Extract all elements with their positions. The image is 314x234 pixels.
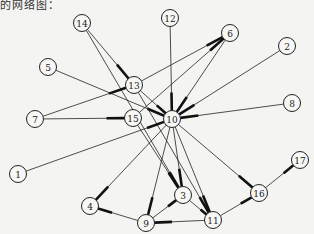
- node-label: 13: [128, 81, 140, 91]
- node-label: 9: [143, 219, 149, 229]
- node-2: 2: [279, 38, 296, 55]
- node-1: 1: [10, 166, 27, 183]
- node-4: 4: [82, 198, 99, 215]
- node-label: 10: [166, 115, 178, 125]
- node-6: 6: [222, 25, 239, 42]
- node-12: 12: [162, 10, 179, 27]
- network-graph: 1234567891011121314151617: [0, 0, 314, 234]
- node-label: 15: [127, 114, 139, 124]
- node-14: 14: [74, 15, 91, 32]
- node-label: 1: [15, 170, 21, 180]
- node-label: 6: [227, 29, 233, 39]
- node-16: 16: [251, 185, 268, 202]
- edge-direction-marker: [179, 169, 182, 187]
- node-15: 15: [125, 110, 142, 127]
- node-label: 5: [45, 63, 51, 73]
- edge-direction-marker: [168, 200, 176, 206]
- node-8: 8: [284, 95, 301, 112]
- node-label: 2: [284, 42, 290, 52]
- edge-14-3: [86, 30, 178, 187]
- node-label: 11: [207, 216, 218, 226]
- node-17: 17: [292, 152, 309, 169]
- node-11: 11: [205, 212, 222, 229]
- node-label: 8: [289, 99, 295, 109]
- node-10: 10: [164, 111, 181, 128]
- edge-direction-marker: [169, 173, 179, 188]
- edge-direction-marker: [239, 176, 253, 188]
- node-label: 17: [294, 156, 306, 166]
- node-3: 3: [175, 187, 192, 204]
- node-13: 13: [126, 77, 143, 94]
- node-label: 12: [164, 14, 175, 24]
- edge-direction-marker: [148, 197, 152, 214]
- node-label: 7: [32, 115, 38, 125]
- edge-1-10: [26, 122, 164, 171]
- edge-direction-marker: [241, 197, 252, 203]
- node-label: 14: [76, 19, 88, 29]
- edge-direction-marker: [147, 122, 164, 128]
- node-5: 5: [40, 59, 57, 76]
- edge-direction-marker: [98, 208, 112, 212]
- node-label: 3: [180, 191, 186, 201]
- edge-direction-marker: [96, 187, 108, 200]
- node-label: 16: [253, 189, 265, 199]
- node-7: 7: [27, 111, 44, 128]
- node-9: 9: [138, 215, 155, 232]
- edge-direction-marker: [284, 165, 294, 173]
- edge-direction-marker: [180, 115, 198, 117]
- edge-direction-marker: [117, 65, 129, 79]
- nodes-layer: 1234567891011121314151617: [10, 10, 309, 232]
- edge-direction-marker: [201, 210, 207, 215]
- node-label: 4: [87, 202, 93, 212]
- edge-direction-marker: [154, 222, 172, 223]
